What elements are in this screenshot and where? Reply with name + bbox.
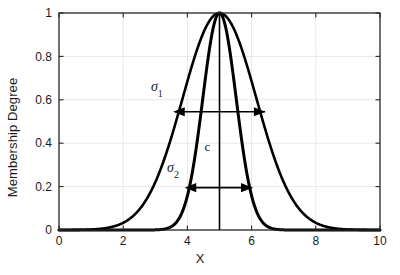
sigma-1-label: σ1 — [151, 79, 163, 99]
x-tick-label: 4 — [184, 234, 191, 248]
y-tick-label: 0.4 — [35, 136, 52, 150]
sigma-2-label: σ2 — [167, 160, 179, 180]
x-tick-label: 6 — [248, 234, 255, 248]
y-tick-label: 1 — [45, 6, 52, 20]
x-tick-labels: 0246810 — [56, 234, 387, 248]
y-tick-labels: 00.20.40.60.81 — [35, 6, 52, 237]
y-tick-label: 0.6 — [35, 93, 52, 107]
x-tick-label: 2 — [120, 234, 127, 248]
y-tick-label: 0.8 — [35, 50, 52, 64]
y-tick-label: 0.2 — [35, 180, 52, 194]
y-tick-label: 0 — [45, 223, 52, 237]
x-tick-label: 8 — [312, 234, 319, 248]
x-axis-label: X — [0, 251, 400, 266]
chart-canvas: σ1σ2c024681000.20.40.60.81 — [0, 0, 400, 275]
gaussian-membership-chart: σ1σ2c024681000.20.40.60.81 Membership De… — [0, 0, 400, 275]
center-label: c — [204, 139, 210, 154]
x-tick-label: 10 — [373, 234, 387, 248]
x-tick-label: 0 — [56, 234, 63, 248]
annotation-labels: σ1σ2c — [151, 79, 210, 180]
